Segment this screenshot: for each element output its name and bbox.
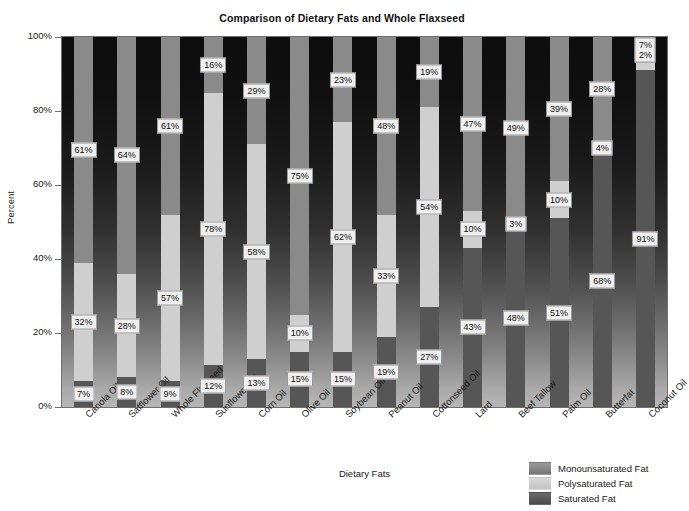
- stacked-bar[interactable]: [550, 37, 569, 407]
- legend-swatch-icon: [529, 462, 551, 475]
- bar-group[interactable]: 7%2%91%: [624, 37, 667, 407]
- legend-item[interactable]: Saturated Fat: [529, 491, 679, 505]
- legend-item-label: Saturated Fat: [558, 493, 616, 504]
- bar-group[interactable]: 75%10%15%: [278, 37, 321, 407]
- data-label-monounsaturated: 75%: [287, 168, 313, 183]
- chart-title: Comparison of Dietary Fats and Whole Fla…: [0, 12, 684, 24]
- data-label-polysaturated: 57%: [157, 290, 183, 305]
- stacked-bar[interactable]: [377, 37, 396, 407]
- data-label-polysaturated: 28%: [114, 318, 140, 333]
- data-label-monounsaturated: 47%: [460, 116, 486, 131]
- legend: Monounsaturated FatPolysaturated FatSatu…: [529, 461, 679, 506]
- data-label-polysaturated: 3%: [505, 216, 526, 231]
- legend-item[interactable]: Polysaturated Fat: [529, 476, 679, 490]
- data-label-monounsaturated: 28%: [589, 81, 615, 96]
- data-label-monounsaturated: 16%: [200, 57, 226, 72]
- stacked-bar[interactable]: [290, 37, 309, 407]
- y-axis-tick-label: 0%: [38, 400, 52, 411]
- bar-group[interactable]: 64%28%8%: [105, 37, 148, 407]
- data-label-polysaturated: 2%: [639, 50, 652, 61]
- data-label-saturated: 7%: [73, 387, 94, 402]
- legend-swatch-icon: [529, 477, 551, 490]
- bar-group[interactable]: 49%3%48%: [494, 37, 537, 407]
- data-label-combined: 7%2%: [635, 37, 656, 62]
- data-label-saturated: 43%: [460, 320, 486, 335]
- bars-container: 61%32%7%64%28%8%61%57%9%16%78%12%29%58%1…: [62, 37, 667, 407]
- bar-group[interactable]: 23%62%15%: [321, 37, 364, 407]
- stacked-bar[interactable]: [161, 37, 180, 407]
- data-label-monounsaturated: 23%: [330, 72, 356, 87]
- data-label-saturated: 15%: [287, 372, 313, 387]
- legend-item-label: Polysaturated Fat: [558, 478, 632, 489]
- data-label-polysaturated: 10%: [460, 222, 486, 237]
- data-label-monounsaturated: 61%: [157, 118, 183, 133]
- bar-group[interactable]: 19%54%27%: [408, 37, 451, 407]
- bar-group[interactable]: 29%58%13%: [235, 37, 278, 407]
- data-label-saturated: 27%: [416, 350, 442, 365]
- bar-group[interactable]: 61%57%9%: [148, 37, 191, 407]
- data-label-polysaturated: 58%: [243, 244, 269, 259]
- data-label-polysaturated: 54%: [416, 200, 442, 215]
- y-axis-tick-label: 20%: [33, 326, 52, 337]
- data-label-monounsaturated: 49%: [503, 120, 529, 135]
- x-axis: Canola OilSafflower OilWhole FlaxseedSun…: [61, 408, 668, 468]
- data-label-polysaturated: 62%: [330, 229, 356, 244]
- data-label-saturated: 51%: [546, 305, 572, 320]
- bar-group[interactable]: 16%78%12%: [192, 37, 235, 407]
- data-label-monounsaturated: 19%: [416, 65, 442, 80]
- data-label-polysaturated: 32%: [71, 314, 97, 329]
- bar-segment-polysaturated[interactable]: [636, 63, 655, 70]
- stacked-bar[interactable]: [636, 37, 655, 407]
- data-label-saturated: 48%: [503, 311, 529, 326]
- legend-swatch-icon: [529, 492, 551, 505]
- data-label-monounsaturated: 29%: [243, 83, 269, 98]
- bar-group[interactable]: 61%32%7%: [62, 37, 105, 407]
- data-label-monounsaturated: 64%: [114, 148, 140, 163]
- data-label-saturated: 8%: [116, 385, 137, 400]
- data-label-polysaturated: 10%: [287, 326, 313, 341]
- legend-item[interactable]: Monounsaturated Fat: [529, 461, 679, 475]
- y-axis-tick-label: 100%: [28, 30, 52, 41]
- data-label-saturated: 15%: [330, 372, 356, 387]
- data-label-polysaturated: 78%: [200, 221, 226, 236]
- data-label-polysaturated: 33%: [373, 268, 399, 283]
- y-axis-tick-label: 60%: [33, 178, 52, 189]
- data-label-saturated: 91%: [632, 231, 658, 246]
- data-label-monounsaturated: 48%: [373, 118, 399, 133]
- data-label-saturated: 9%: [160, 386, 181, 401]
- data-label-saturated: 12%: [200, 379, 226, 394]
- data-label-saturated: 13%: [243, 375, 269, 390]
- bar-group[interactable]: 48%33%19%: [365, 37, 408, 407]
- data-label-monounsaturated: 7%: [639, 39, 652, 50]
- data-label-saturated: 68%: [589, 274, 615, 289]
- y-axis-title: Percent: [5, 178, 16, 238]
- bar-group[interactable]: 39%10%51%: [537, 37, 580, 407]
- stacked-bar[interactable]: [74, 37, 93, 407]
- y-axis-tick-label: 40%: [33, 252, 52, 263]
- data-label-polysaturated: 10%: [546, 192, 572, 207]
- data-label-polysaturated: 4%: [592, 141, 613, 156]
- y-axis: Percent 0%20%40%60%80%100%: [0, 36, 61, 408]
- data-label-monounsaturated: 39%: [546, 102, 572, 117]
- legend-item-label: Monounsaturated Fat: [558, 463, 648, 474]
- data-label-monounsaturated: 61%: [71, 142, 97, 157]
- y-axis-tick-label: 80%: [33, 104, 52, 115]
- plot-area: 61%32%7%64%28%8%61%57%9%16%78%12%29%58%1…: [61, 36, 668, 408]
- bar-group[interactable]: 47%10%43%: [451, 37, 494, 407]
- stacked-bar[interactable]: [333, 37, 352, 407]
- stacked-bar[interactable]: [117, 37, 136, 407]
- bar-group[interactable]: 28%4%68%: [581, 37, 624, 407]
- data-label-saturated: 19%: [373, 364, 399, 379]
